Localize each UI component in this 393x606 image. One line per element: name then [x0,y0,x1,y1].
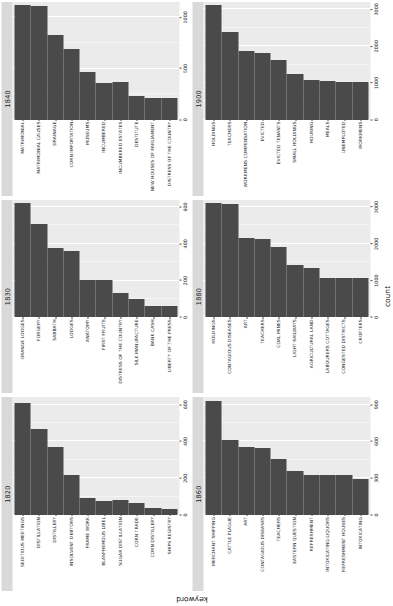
category-tick-label: MATRIMONIAL [20,120,25,196]
category-tick-label: MATRIMONIAL CAUSES [36,120,41,196]
x-tick: 600 [179,400,187,409]
facet-panel-1900: 1900HOLDINGSTEACHERSWORKMENS COMPENSATIO… [191,0,382,198]
bar-row [63,397,79,515]
x-tick-mark [179,243,181,244]
bar [128,96,144,120]
bar [352,82,368,120]
x-axis: 0200400600 [179,200,191,394]
category-tick-label: CORN TRADE [134,515,139,591]
x-tick-mark [370,82,372,83]
bar [270,247,286,317]
x-tick: 0 [370,316,378,319]
x-tick: 1000 [179,11,187,23]
bar [238,447,254,515]
bar-row [254,2,270,120]
plot-area [12,200,179,318]
bar-row [30,200,46,318]
bar [63,251,79,317]
x-tick-mark [370,119,372,120]
bar-row [128,200,144,318]
category-tick-label: UNEMPLOYED [341,120,346,196]
category-tick-label: HOLDINGS [211,120,216,196]
bar-row [47,2,63,120]
x-tick-label: 600 [182,202,187,211]
bar-row [112,397,128,515]
x-tick-mark [370,441,372,442]
category-tick-label: SMALL HOLDINGS [292,120,297,196]
y-axis-title: keyword [0,593,382,606]
bar [95,280,111,318]
bar-row [95,397,111,515]
category-tick-label: COAL MINES [276,317,281,393]
category-axis: SEDITIOUS MEETINGSDISTILLATIONDISTILLERY… [12,515,179,591]
x-axis-ticks: 05001000 [179,2,191,120]
x-tick-mark [370,46,372,47]
x-tick-label: 0 [373,118,378,121]
bar [112,82,128,119]
x-tick-label: 500 [182,64,187,73]
x-tick: 0 [370,513,378,516]
facet-grid: 1820SEDITIOUS MEETINGSDISTILLATIONDISTIL… [0,0,382,593]
category-tick-label: CORN DISTILLERY [150,515,155,591]
bar-row [30,2,46,120]
bar-row [303,2,319,120]
facet-panel-1880: 1880HOLDINGSCONTAGIOUS DISEASESARTTEACHE… [191,198,382,396]
x-tick-label: 400 [182,239,187,248]
bar [238,238,254,318]
bar-row [303,397,319,515]
x-tick: 200 [179,276,187,285]
bar-row [79,200,95,318]
x-tick: 0 [179,316,187,319]
category-tick-label: ANATOMY [85,317,90,393]
x-tick: 300 [370,474,378,483]
bar-row [335,200,351,318]
bar [79,498,95,515]
x-axis-title-row: count [382,0,393,606]
category-tick-label: AGRICULTURAL LAND [309,317,314,393]
bar [128,299,144,317]
bar-row [221,397,237,515]
facet-panel-1840: 1840MATRIMONIALMATRIMONIAL CAUSESDRAINAG… [0,0,191,198]
x-tick-mark [370,317,372,318]
bar [161,509,177,515]
bar [221,32,237,120]
x-tick-mark [179,317,181,318]
x-tick: 200 [179,474,187,483]
bar [47,35,63,120]
bar [14,5,30,120]
x-tick-label: 0 [182,316,187,319]
bar-row [144,200,160,318]
x-axis-title-spacer [382,593,393,606]
bar-row [254,200,270,318]
x-tick: 3000 [370,3,378,15]
x-tick: 0 [179,118,187,121]
bar-row [319,397,335,515]
x-tick-mark [179,119,181,120]
plot-area [203,2,370,120]
x-axis: 0300600900 [370,397,382,591]
bar-row [14,200,30,318]
bar-row [335,2,351,120]
bar-row [112,200,128,318]
figure-body: keyword 1820SEDITIOUS MEETINGSDISTILLATI… [0,0,382,606]
x-axis-spacer [179,317,191,393]
y-axis-title-text: keyword [175,595,207,604]
x-tick: 1000 [370,77,378,89]
plot-area [12,397,179,515]
x-tick-mark [179,207,181,208]
category-tick-label: MUSEUMS [85,120,90,196]
category-axis: HOLDINGSTEACHERSWORKMENS COMPENSATIONEVI… [203,120,370,196]
x-tick-label: 200 [182,276,187,285]
plot-row: HOLDINGSTEACHERSWORKMENS COMPENSATIONEVI… [203,2,370,196]
bar [79,280,95,318]
bar-row [254,397,270,515]
category-tick-label: ORANGE LODGES [20,317,25,393]
category-tick-label: CROFTERS [358,317,363,393]
x-tick: 3000 [370,201,378,213]
x-tick-label: 600 [373,437,378,446]
bar-row [79,397,95,515]
bar-row [270,200,286,318]
plot-row: ORANGE LODGESFORGERYSABBATHLODGESANATOMY… [12,200,179,394]
category-tick-label: LABOURERS COTTAGES [325,317,330,393]
bar-row [14,397,30,515]
